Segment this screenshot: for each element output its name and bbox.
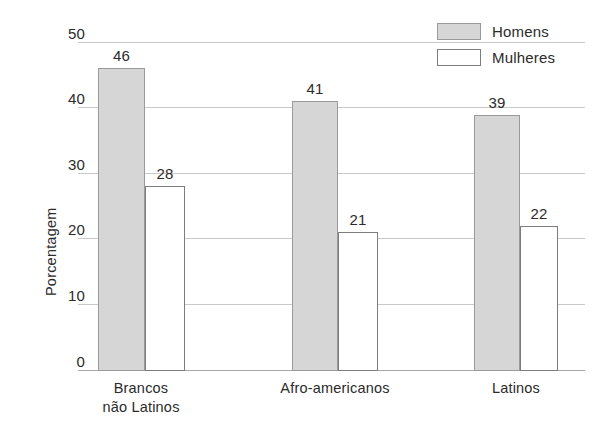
category-label-afro-americanos: Afro-americanos xyxy=(270,379,400,398)
bar-value-homens-latinos: 39 xyxy=(474,95,520,111)
bar-mulheres-latinos xyxy=(520,226,558,371)
legend-item-homens: Homens xyxy=(437,20,555,42)
bar-value-homens-afro-americanos: 41 xyxy=(292,81,338,97)
bar-mulheres-brancos-nao-latinos xyxy=(145,186,185,371)
legend: Homens Mulheres xyxy=(437,20,555,72)
bar-value-mulheres-afro-americanos: 21 xyxy=(338,212,378,228)
ytick-label-50: 50 xyxy=(39,26,85,42)
y-axis-title: Porcentagem xyxy=(43,116,59,296)
legend-swatch-mulheres-icon xyxy=(437,49,481,66)
category-label-latinos: Latinos xyxy=(451,379,581,398)
bar-chart: 50 40 30 20 10 0 Porcentagem 46 28 Branc… xyxy=(0,0,600,436)
bar-value-mulheres-latinos: 22 xyxy=(519,206,559,222)
ytick-label-40: 40 xyxy=(39,91,85,107)
bar-homens-afro-americanos xyxy=(292,101,338,371)
category-label-brancos-nao-latinos: Brancos não Latinos xyxy=(76,379,206,417)
bar-value-mulheres-brancos-nao-latinos: 28 xyxy=(145,166,185,182)
bar-homens-brancos-nao-latinos xyxy=(98,68,145,371)
bar-homens-latinos xyxy=(474,115,520,371)
ytick-label-0: 0 xyxy=(39,354,85,370)
legend-label-homens: Homens xyxy=(492,23,549,40)
bar-value-homens-brancos-nao-latinos: 46 xyxy=(98,48,145,64)
legend-label-mulheres: Mulheres xyxy=(492,49,555,66)
legend-item-mulheres: Mulheres xyxy=(437,46,555,68)
bar-mulheres-afro-americanos xyxy=(338,232,378,371)
legend-swatch-homens-icon xyxy=(437,23,481,40)
